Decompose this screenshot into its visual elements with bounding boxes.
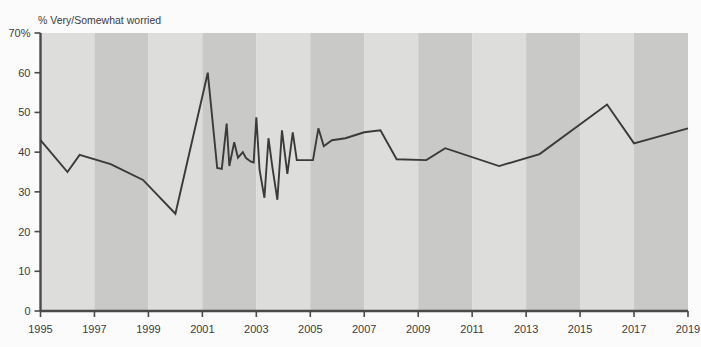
y-tick-label: 10	[18, 265, 30, 277]
y-tick-label: 20	[18, 226, 30, 238]
x-tick-label: 1997	[82, 323, 106, 335]
x-tick-label: 2005	[298, 323, 322, 335]
year-band	[364, 33, 418, 311]
chart-container: 010203040506070% 19951997199920012003200…	[0, 0, 701, 347]
y-axis-title: % Very/Somewhat worried	[38, 14, 161, 26]
x-tick-label: 2009	[406, 323, 430, 335]
year-band	[256, 33, 310, 311]
x-tick-label: 2007	[352, 323, 376, 335]
x-tick-label: 1995	[28, 323, 52, 335]
worry-line-chart: 010203040506070% 19951997199920012003200…	[0, 0, 701, 347]
y-axis-tick-labels: 010203040506070%	[8, 27, 30, 317]
year-band	[94, 33, 148, 311]
y-tick-label: 30	[18, 186, 30, 198]
year-band	[526, 33, 580, 311]
y-tick-label: 70%	[8, 27, 30, 39]
x-tick-label: 2019	[676, 323, 700, 335]
year-band	[634, 33, 688, 311]
y-tick-label: 40	[18, 146, 30, 158]
x-tick-label: 1999	[136, 323, 160, 335]
x-tick-label: 2015	[568, 323, 592, 335]
year-band	[418, 33, 472, 311]
y-tick-label: 0	[24, 305, 30, 317]
year-band	[148, 33, 202, 311]
x-tick-label: 2001	[190, 323, 214, 335]
y-tick-label: 50	[18, 106, 30, 118]
year-bands	[41, 33, 689, 311]
x-axis-tick-labels: 1995199719992001200320052007200920112013…	[28, 323, 700, 335]
year-band	[202, 33, 256, 311]
x-tick-label: 2013	[514, 323, 538, 335]
year-band	[310, 33, 364, 311]
x-tick-label: 2017	[622, 323, 646, 335]
year-band	[472, 33, 526, 311]
x-tick-label: 2003	[244, 323, 268, 335]
x-tick-label: 2011	[460, 323, 484, 335]
year-band	[580, 33, 634, 311]
y-tick-label: 60	[18, 67, 30, 79]
